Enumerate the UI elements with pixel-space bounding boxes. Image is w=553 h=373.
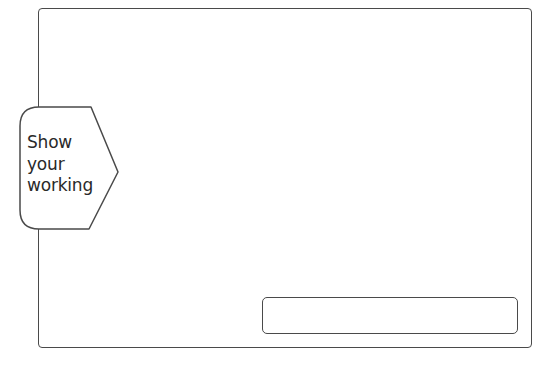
label-line-1: Show — [27, 132, 93, 154]
answer-box[interactable] — [262, 297, 518, 334]
label-line-3: working — [27, 175, 93, 197]
label-line-2: your — [27, 154, 93, 176]
show-working-label: Show your working — [27, 132, 93, 197]
